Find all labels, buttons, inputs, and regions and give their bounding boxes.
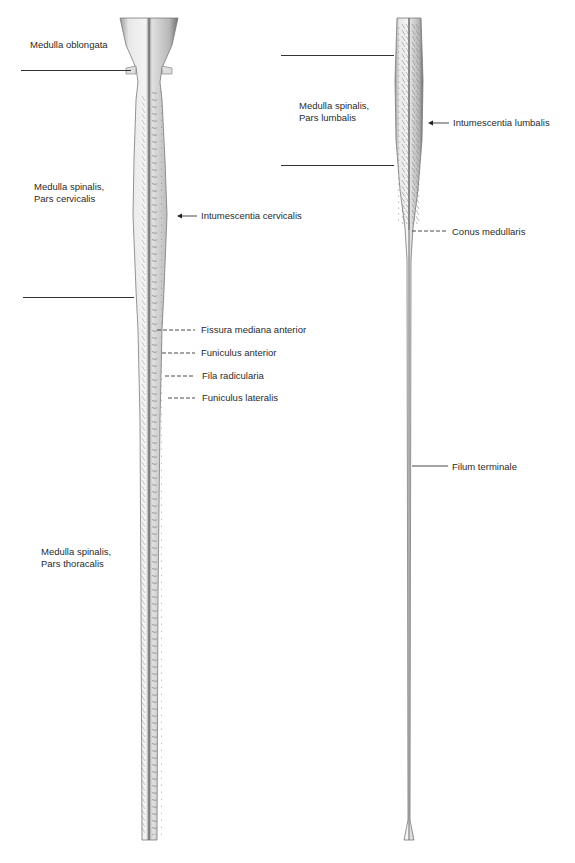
annotation-intumescentia-cervicalis: Intumescentia cervicalis	[201, 210, 302, 222]
divider-lumbar-bottom	[281, 165, 394, 166]
lower-spinal-cord-shape	[395, 18, 423, 840]
divider-cervical-thoracic	[23, 297, 134, 298]
annotation-conus-medullaris: Conus medullaris	[452, 226, 525, 238]
arrowhead-cervicalis	[177, 214, 182, 219]
annotation-intumescentia-lumbalis: Intumescentia lumbalis	[453, 117, 550, 129]
divider-oblongata-cervical	[21, 70, 131, 71]
label-medulla-oblongata: Medulla oblongata	[30, 39, 108, 51]
arrowhead-lumbalis	[428, 121, 433, 126]
spinal-cord-illustration	[0, 0, 575, 863]
annotation-funiculus-lateralis: Funiculus lateralis	[202, 392, 278, 404]
upper-spinal-cord-shape	[120, 18, 178, 840]
divider-lumbar-top	[281, 55, 394, 56]
label-pars-lumbalis: Medulla spinalis, Pars lumbalis	[299, 100, 369, 124]
annotation-filum-terminale: Filum terminale	[452, 461, 517, 473]
annotation-funiculus-anterior: Funiculus anterior	[201, 347, 277, 359]
annotation-fila-radicularia: Fila radicularia	[202, 370, 264, 382]
label-pars-thoracalis: Medulla spinalis, Pars thoracalis	[41, 546, 111, 570]
annotation-fissura-mediana-anterior: Fissura mediana anterior	[201, 324, 306, 336]
label-pars-cervicalis: Medulla spinalis, Pars cervicalis	[34, 181, 104, 205]
